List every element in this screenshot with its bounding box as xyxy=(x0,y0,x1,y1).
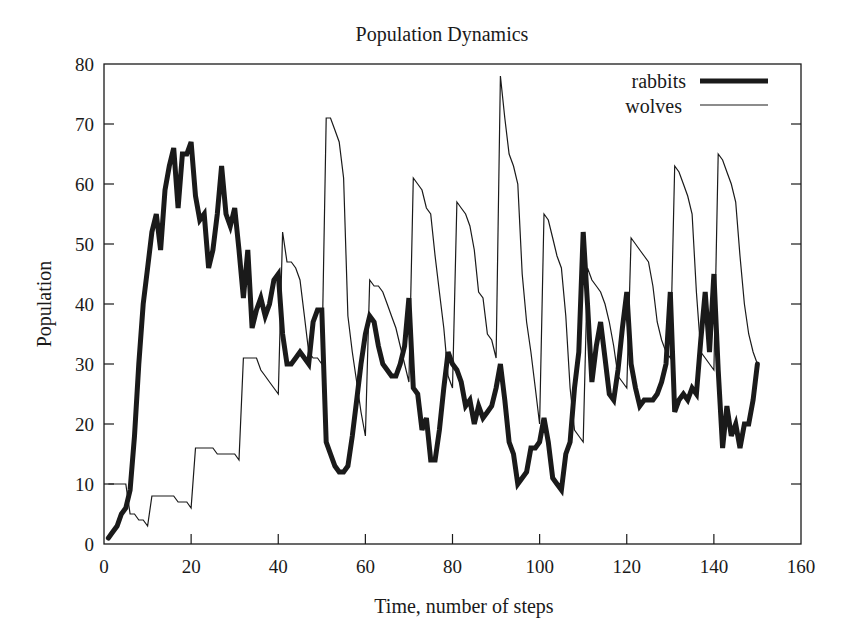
x-tick-label: 100 xyxy=(525,556,554,577)
x-tick-label: 0 xyxy=(99,556,109,577)
y-tick-label: 80 xyxy=(75,54,94,75)
rabbits-line xyxy=(108,142,757,538)
x-tick-label: 140 xyxy=(700,556,729,577)
y-tick-label: 50 xyxy=(75,234,94,255)
plot-frame xyxy=(104,64,801,544)
x-tick-label: 120 xyxy=(613,556,642,577)
y-tick-label: 30 xyxy=(75,354,94,375)
y-tick-label: 20 xyxy=(75,414,94,435)
y-axis: 01020304050607080 xyxy=(75,54,801,555)
x-tick-label: 160 xyxy=(787,556,816,577)
x-tick-label: 60 xyxy=(356,556,375,577)
x-tick-label: 80 xyxy=(443,556,462,577)
series-layer xyxy=(108,76,757,538)
y-axis-title: Population xyxy=(33,261,56,348)
y-tick-label: 70 xyxy=(75,114,94,135)
population-chart: Population Dynamics 01020304050607080 02… xyxy=(0,0,849,639)
x-axis: 020406080100120140160 xyxy=(99,534,815,577)
y-tick-label: 10 xyxy=(75,474,94,495)
chart-title: Population Dynamics xyxy=(356,23,529,46)
legend-label-rabbits: rabbits xyxy=(632,70,687,92)
x-axis-title: Time, number of steps xyxy=(374,595,553,618)
x-tick-label: 20 xyxy=(182,556,201,577)
legend: rabbits wolves xyxy=(625,70,768,117)
y-tick-label: 40 xyxy=(75,294,94,315)
y-tick-label: 0 xyxy=(85,534,95,555)
y-tick-label: 60 xyxy=(75,174,94,195)
legend-label-wolves: wolves xyxy=(625,95,682,117)
x-tick-label: 40 xyxy=(269,556,288,577)
